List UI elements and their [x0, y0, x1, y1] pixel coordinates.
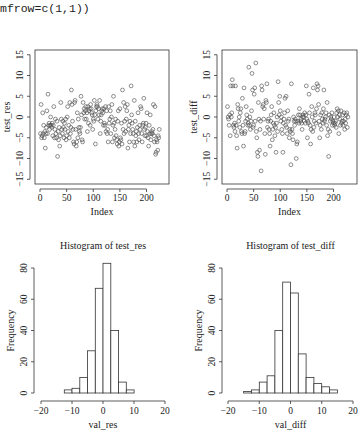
data-point	[233, 130, 237, 134]
data-point	[108, 109, 112, 113]
y-tick-label: 0	[19, 390, 29, 395]
data-point	[71, 119, 75, 123]
data-point	[146, 130, 150, 134]
data-point	[249, 119, 253, 123]
data-point	[136, 111, 140, 115]
data-point	[65, 134, 69, 138]
histogram-bar	[111, 331, 119, 394]
y-axis: −15−10−5051015test_res	[1, 50, 30, 187]
x-axis-label: Index	[278, 206, 301, 217]
data-point	[121, 127, 125, 131]
data-point	[136, 126, 140, 130]
data-point	[317, 103, 321, 107]
data-point	[69, 132, 73, 136]
y-tick-label: 40	[207, 326, 217, 336]
y-axis-label: test_diff	[188, 100, 199, 134]
data-point	[79, 94, 83, 98]
data-point	[67, 123, 71, 127]
data-point	[258, 127, 262, 131]
y-tick-label: 5	[15, 94, 25, 99]
data-point	[258, 148, 262, 152]
data-point	[277, 101, 281, 105]
data-point	[287, 136, 291, 140]
data-point	[80, 113, 84, 117]
data-point	[291, 138, 295, 142]
x-tick-label: 0	[225, 193, 230, 203]
y-axis: 020406080Frequency	[5, 263, 34, 395]
data-point	[309, 142, 313, 146]
histogram-bar	[103, 263, 111, 393]
data-point	[98, 132, 102, 136]
data-point	[315, 107, 319, 111]
data-point	[253, 119, 257, 123]
data-point	[241, 96, 245, 100]
x-axis: −20−1001020val_res	[34, 401, 170, 430]
data-point	[140, 140, 144, 144]
data-point	[74, 144, 78, 148]
data-point	[318, 136, 322, 140]
data-point	[268, 144, 272, 148]
y-tick-label: 5	[202, 94, 212, 99]
x-tick-label: −20	[34, 406, 49, 416]
data-point	[126, 127, 130, 131]
data-point	[277, 113, 281, 117]
bars	[244, 282, 338, 393]
x-tick-label: 200	[326, 193, 341, 203]
data-point	[133, 119, 137, 123]
data-point	[54, 132, 58, 136]
data-point	[268, 132, 272, 136]
data-point	[272, 111, 276, 115]
data-point	[39, 103, 43, 107]
y-tick-label: −15	[202, 172, 212, 187]
data-point	[278, 94, 282, 98]
data-point	[227, 123, 231, 127]
data-point	[142, 96, 146, 100]
data-point	[86, 130, 90, 134]
data-point	[256, 150, 260, 154]
scatter-plot-test-diff: 050100150200Index−15−10−5051015test_diff	[188, 50, 357, 217]
x-tick-label: 200	[139, 193, 154, 203]
data-point	[61, 132, 65, 136]
scatter-plot-test-res: 050100150200Index−15−10−5051015test_res	[1, 50, 169, 217]
data-point	[93, 113, 97, 117]
y-tick-label: 40	[19, 326, 29, 336]
y-axis: 020406080Frequency	[193, 263, 222, 395]
data-point	[275, 115, 279, 119]
histogram-bar	[126, 390, 134, 393]
data-point	[157, 127, 161, 131]
data-point	[76, 117, 80, 121]
data-point	[70, 88, 74, 92]
data-point	[58, 134, 62, 138]
data-point	[274, 150, 278, 154]
histogram-title: Histogram of test_diff	[246, 240, 335, 251]
data-point	[58, 144, 62, 148]
data-point	[109, 132, 113, 136]
x-tick-label: 10	[129, 406, 139, 416]
histogram-bar	[306, 377, 314, 393]
data-point	[46, 92, 50, 96]
x-axis-label: val_res	[89, 419, 118, 430]
data-point	[67, 136, 71, 140]
data-point	[308, 111, 312, 115]
y-tick-label: 0	[207, 390, 217, 395]
y-tick-label: 20	[19, 357, 29, 367]
histogram-test-diff: Histogram of test_diff−20−1001020val_dif…	[193, 240, 358, 430]
data-point	[276, 130, 280, 134]
data-point	[298, 107, 302, 111]
x-tick-label: 100	[273, 193, 288, 203]
histogram-bar	[64, 390, 72, 393]
data-point	[235, 146, 239, 150]
histogram-bar	[259, 382, 267, 393]
data-point	[45, 109, 49, 113]
data-point	[131, 127, 135, 131]
y-axis: −15−10−5051015test_diff	[188, 50, 217, 187]
data-point	[242, 144, 246, 148]
data-point	[126, 146, 130, 150]
histogram-bar	[322, 387, 330, 393]
data-point	[289, 163, 293, 167]
data-point	[265, 82, 269, 86]
data-point	[75, 111, 79, 115]
data-point	[94, 109, 98, 113]
x-axis: −20−1001020val_diff	[221, 401, 358, 430]
y-tick-label: −10	[15, 151, 25, 166]
